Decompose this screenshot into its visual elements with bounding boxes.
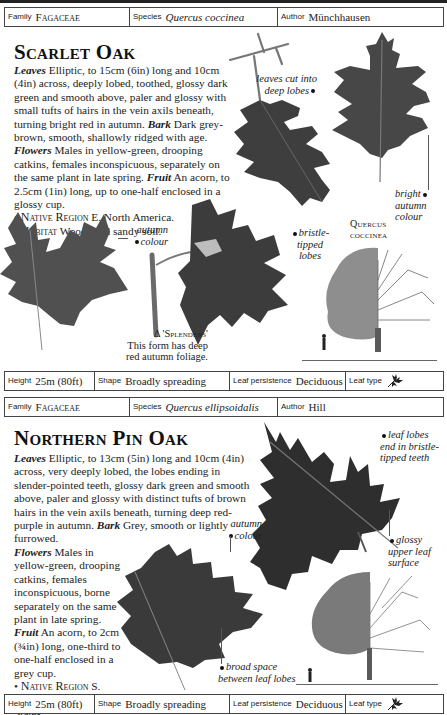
leader-dot	[390, 539, 394, 543]
author-label: Author	[281, 12, 305, 21]
author-label: Author	[281, 402, 305, 411]
leaf-type-cell: Leaf type	[346, 372, 443, 390]
height-label: Height	[8, 376, 31, 385]
leaf-persistence-value: Deciduous	[296, 375, 343, 387]
entry-title: Northern Pin Oak	[14, 426, 188, 451]
tree-species-label: Quercus coccinea	[350, 218, 387, 240]
caption-deep-lobes: leaves cut into deep lobes	[249, 73, 317, 96]
height-value: 25m (80ft)	[35, 375, 82, 387]
bark-heading: Bark	[97, 519, 120, 531]
leader-line	[230, 536, 231, 552]
entry-footer-table: Height 25m (80ft) Shape Broadly spreadin…	[4, 371, 444, 391]
caption-bristle-teeth: leaf lobes end in bristle- tipped teeth	[380, 429, 446, 464]
family-value: Fagaceae	[36, 11, 80, 23]
shape-value: Broadly spreading	[125, 375, 206, 387]
cultivar-note: Δ 'Splendens' This form has deep red aut…	[120, 328, 208, 363]
leaf-persistence-label: Leaf persistence	[233, 376, 292, 385]
leaf-type-label: Leaf type	[349, 699, 382, 708]
entry-description-top: Leaves Elliptic, to 13cm (5in) long and …	[14, 452, 250, 546]
family-label: Family	[8, 402, 32, 411]
flowers-heading: Flowers	[14, 546, 52, 558]
author-cell: Author Münchhausen	[278, 8, 443, 26]
shape-cell: Shape Broadly spreading	[95, 372, 230, 390]
page-top-rule	[0, 0, 447, 3]
entry-header-table: Family Fagaceae Species Quercus ellipsoi…	[4, 397, 444, 417]
shape-label: Shape	[98, 699, 121, 708]
leader-dot	[382, 434, 386, 438]
family-cell: Family Fagaceae	[5, 398, 130, 416]
leaves-heading: Leaves	[14, 452, 46, 464]
height-value: 25m (80ft)	[35, 698, 82, 710]
caption-broad-space: broad space between leaf lobes	[218, 661, 298, 684]
lobed-leaf-icon	[386, 697, 404, 711]
shape-cell: Shape Broadly spreading	[95, 695, 230, 713]
leaves-heading: Leaves	[14, 64, 46, 76]
leader-dot	[423, 193, 427, 197]
shape-label: Shape	[98, 376, 121, 385]
leaf-persistence-cell: Leaf persistence Deciduous	[230, 372, 346, 390]
tree-silhouette-illustration	[302, 568, 442, 686]
fruit-heading: Fruit	[147, 171, 172, 183]
family-value: Fagaceae	[36, 401, 80, 413]
shape-value: Broadly spreading	[125, 698, 206, 710]
cultivar-name: 'Splendens'	[163, 328, 208, 339]
bark-heading: Bark	[148, 118, 171, 130]
family-cell: Family Fagaceae	[5, 8, 130, 26]
author-value: Münchhausen	[309, 11, 371, 23]
leader-line	[389, 510, 390, 536]
autumn-leaf-illustration	[330, 32, 440, 182]
leader-dot	[135, 240, 139, 244]
species-cell: Species Quercus ellipsoidalis	[130, 398, 278, 416]
caption-glossy-surface: glossy upper leaf surface	[388, 534, 446, 569]
ground-line	[302, 360, 437, 361]
height-label: Height	[8, 699, 31, 708]
author-cell: Author Hill	[278, 398, 443, 416]
entry-footer-table: Height 25m (80ft) Shape Broadly spreadin…	[4, 694, 444, 714]
author-value: Hill	[309, 401, 326, 413]
caption-autumn-colour: autumn colour	[218, 518, 262, 541]
species-cell: Species Quercus coccinea	[130, 8, 278, 26]
species-value: Quercus coccinea	[165, 11, 244, 23]
leader-dot	[220, 666, 224, 670]
splendens-leaf-illustration	[0, 210, 135, 360]
caption-bright-autumn: bright autumn colour	[395, 188, 445, 223]
entry-title: Scarlet Oak	[14, 40, 136, 65]
family-label: Family	[8, 12, 32, 21]
leader-line	[118, 238, 128, 239]
leaf-type-cell: Leaf type	[346, 695, 443, 713]
species-label: Species	[133, 12, 161, 21]
leaf-persistence-label: Leaf persistence	[233, 699, 292, 708]
height-cell: Height 25m (80ft)	[5, 695, 95, 713]
leaf-persistence-value: Deciduous	[296, 698, 343, 710]
entry-description-bottom: Flowers Males in yellow-green, drooping …	[14, 546, 122, 715]
caption-autumn-colour: autumn colour	[120, 224, 168, 247]
height-cell: Height 25m (80ft)	[5, 372, 95, 390]
cultivar-symbol: Δ	[154, 328, 160, 339]
ground-line	[296, 684, 438, 685]
flowers-heading: Flowers	[14, 144, 52, 156]
native-region-heading: Native Region	[21, 679, 89, 693]
entry-header-table: Family Fagaceae Species Quercus coccinea…	[4, 7, 444, 27]
leader-dot	[293, 232, 297, 236]
leaf-type-label: Leaf type	[349, 376, 382, 385]
species-value: Quercus ellipsoidalis	[165, 401, 258, 413]
leader-line	[221, 628, 222, 664]
fruit-heading: Fruit	[14, 626, 39, 638]
lobed-leaf-icon	[386, 374, 404, 388]
leader-dot	[311, 89, 315, 93]
species-label: Species	[133, 402, 161, 411]
leader-line	[428, 135, 429, 190]
tree-silhouette-illustration	[318, 240, 443, 360]
leaf-persistence-cell: Leaf persistence Deciduous	[230, 695, 346, 713]
